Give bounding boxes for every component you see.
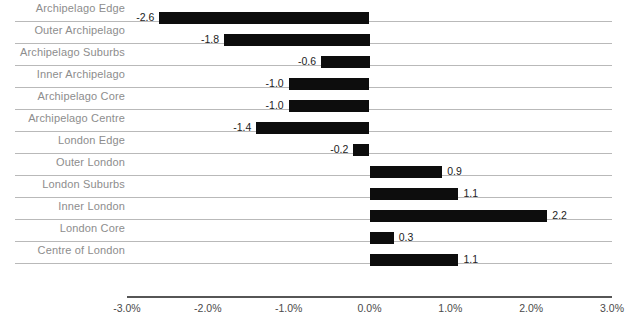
bar-value-label: 2.2 [552, 208, 567, 223]
x-axis-tick-label: -2.0% [194, 301, 221, 315]
x-axis-tick-label: 0.0% [358, 301, 382, 315]
bar [370, 210, 548, 222]
bar [370, 254, 459, 266]
bar-value-label: -1.0 [266, 76, 284, 91]
bar-value-label: 0.9 [447, 164, 462, 179]
bar-item[interactable]: 0.9 [370, 166, 443, 178]
bar-chart: Archipelago Edge Outer Archipelago Archi… [0, 0, 630, 331]
bar-item[interactable]: -1.4 [256, 122, 369, 134]
x-axis-ticks: -3.0%-2.0%-1.0%0.0%1.0%2.0%3.0% [0, 301, 630, 319]
x-axis-line [127, 296, 612, 298]
bar-value-label: 1.1 [463, 186, 478, 201]
x-axis-tick-label: 3.0% [600, 301, 624, 315]
bar [370, 188, 459, 200]
bar-value-label: 0.3 [399, 230, 414, 245]
x-axis-tick-label: 2.0% [519, 301, 543, 315]
bar-series: -2.6-1.8-0.6-1.0-1.0-1.4-0.20.91.12.20.3… [0, 0, 630, 292]
bar [289, 78, 370, 90]
bar-value-label: -2.6 [136, 10, 154, 25]
bar-item[interactable]: -1.0 [289, 100, 370, 112]
bar-item[interactable]: -0.2 [353, 144, 369, 156]
bar [370, 232, 394, 244]
bar-value-label: -0.6 [298, 54, 316, 69]
bar-item[interactable]: -0.6 [321, 56, 370, 68]
bar [321, 56, 370, 68]
bar-value-label: -0.2 [330, 142, 348, 157]
bar [224, 34, 370, 46]
x-axis-tick-label: -3.0% [113, 301, 140, 315]
bar-value-label: -1.0 [266, 98, 284, 113]
bar-item[interactable]: -1.8 [224, 34, 370, 46]
bar [289, 100, 370, 112]
bar [370, 166, 443, 178]
bar-value-label: 1.1 [463, 252, 478, 267]
bar-item[interactable]: 1.1 [370, 254, 459, 266]
bar-item[interactable]: -1.0 [289, 78, 370, 90]
bar-item[interactable]: 2.2 [370, 210, 548, 222]
bar-item[interactable]: 0.3 [370, 232, 394, 244]
bar [353, 144, 369, 156]
bar-item[interactable]: -2.6 [159, 12, 369, 24]
bar [159, 12, 369, 24]
bar-value-label: -1.4 [233, 120, 251, 135]
x-axis-tick-label: 1.0% [438, 301, 462, 315]
bar [256, 122, 369, 134]
bar-item[interactable]: 1.1 [370, 188, 459, 200]
bar-value-label: -1.8 [201, 32, 219, 47]
x-axis-tick-label: -1.0% [275, 301, 302, 315]
